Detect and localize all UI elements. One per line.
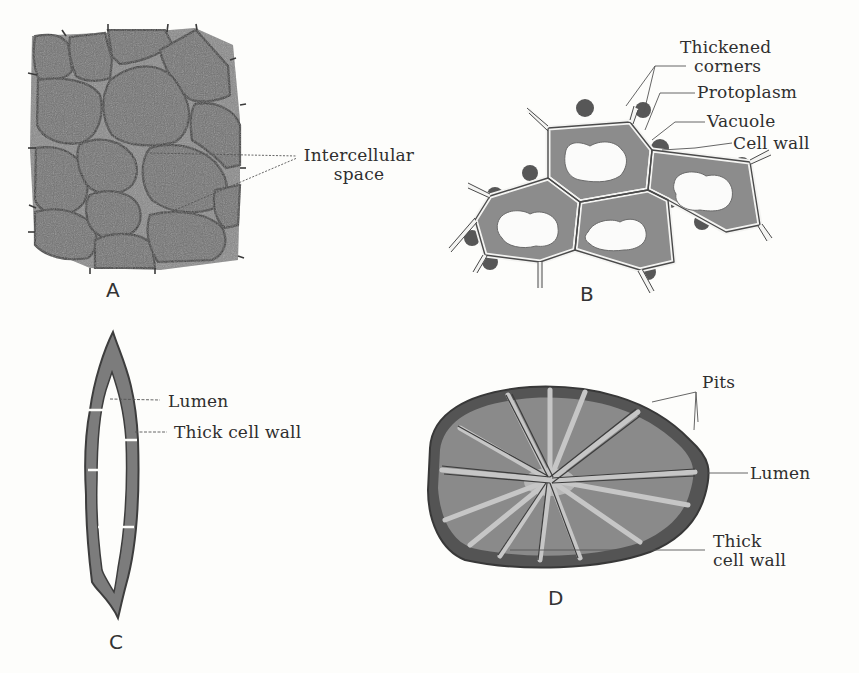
label-protoplasm: Protoplasm [697, 83, 797, 102]
label-thick-cell-wall-c: Thick cell wall [174, 423, 301, 442]
collenchyma-cells-illustration [430, 0, 859, 320]
label-cell-wall: Cell wall [733, 134, 810, 153]
label-intercellular-space: Intercellular space [298, 146, 420, 184]
panel-letter-d: D [548, 586, 563, 610]
label-line-1: Intercellular [298, 146, 420, 165]
panel-d-sclereid: Pits Lumen Thick cell wall D [400, 320, 859, 673]
label-thick-cell-wall-d: Thick cell wall [713, 532, 786, 570]
label-line-2: cell wall [713, 551, 786, 570]
label-lumen-d: Lumen [750, 464, 810, 483]
label-lumen-c: Lumen [168, 392, 228, 411]
panel-letter-c: C [109, 630, 123, 654]
panel-letter-a: A [106, 278, 120, 302]
label-vacuole: Vacuole [707, 112, 775, 131]
panel-a-parenchyma: Intercellular space A [0, 0, 430, 320]
label-line-2: space [298, 165, 420, 184]
sclereid-cell-illustration [400, 320, 859, 673]
label-pits: Pits [702, 373, 735, 392]
label-line-1: Thick [713, 532, 786, 551]
label-line-2: corners [680, 57, 771, 76]
fibre-cell-illustration [0, 320, 400, 673]
label-thickened-corners: Thickened corners [680, 38, 771, 76]
label-line-1: Thickened [680, 38, 771, 57]
panel-c-sclerenchyma-fibre: Lumen Thick cell wall C [0, 320, 400, 673]
panel-letter-b: B [580, 282, 594, 306]
panel-b-collenchyma: Thickened corners Protoplasm Vacuole Cel… [430, 0, 859, 320]
